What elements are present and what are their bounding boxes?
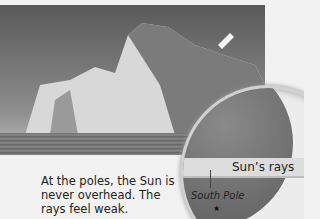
south-pole-label: South Pole: [191, 190, 244, 201]
sun-rays-label: Sun’s rays: [232, 160, 294, 174]
caption: At the poles, the Sun is never overhead.…: [41, 174, 181, 216]
star-icon: ★: [213, 204, 220, 213]
pole-pointer-line: [210, 170, 211, 188]
